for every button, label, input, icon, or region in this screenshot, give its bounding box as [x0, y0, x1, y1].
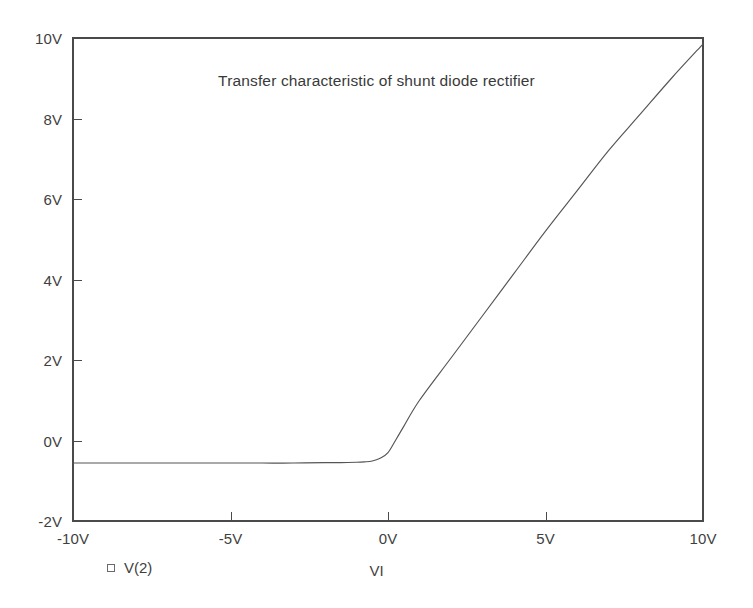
axis-frame	[73, 38, 703, 521]
chart-legend: V(2)	[107, 560, 152, 575]
y-tick-label: 8V	[43, 111, 62, 126]
y-tick-label: 6V	[43, 192, 62, 207]
y-tick-label: 0V	[43, 433, 62, 448]
y-tick-label: -2V	[38, 514, 62, 529]
x-tick-label: 0V	[379, 531, 398, 546]
legend-label-v2: V(2)	[124, 560, 152, 575]
x-tick-label: -10V	[57, 531, 89, 546]
y-tick-label: 10V	[35, 31, 62, 46]
x-axis-ticks	[232, 512, 547, 521]
chart-plot-area	[0, 0, 753, 608]
open-square-marker-icon	[107, 564, 115, 572]
y-tick-label: 2V	[43, 353, 62, 368]
x-tick-label: -5V	[219, 531, 243, 546]
y-axis-ticks	[73, 120, 82, 442]
x-tick-label: 5V	[536, 531, 555, 546]
y-tick-label: 4V	[43, 272, 62, 287]
chart-figure: -2V0V2V4V6V8V10V -10V-5V0V5V10V Transfer…	[0, 0, 753, 608]
x-tick-label: 10V	[690, 531, 717, 546]
chart-title: Transfer characteristic of shunt diode r…	[0, 72, 753, 90]
data-trace-v2	[73, 44, 703, 463]
